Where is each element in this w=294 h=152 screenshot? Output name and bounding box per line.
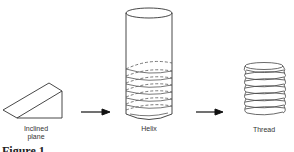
arrow-icon [196, 109, 223, 115]
label-line: Helix [129, 125, 169, 133]
helix-figure [126, 8, 172, 120]
figure-caption: Figure 1 [2, 144, 45, 152]
arrow-icon [81, 109, 110, 115]
inclined-plane-figure [3, 83, 62, 118]
label-line: plane [16, 133, 56, 141]
inclined-plane-label: Inclined plane [16, 125, 56, 141]
label-line: Thread [244, 126, 284, 134]
helix-label: Helix [129, 125, 169, 133]
thread-label: Thread [244, 126, 284, 134]
label-line: Inclined [16, 125, 56, 133]
thread-figure [244, 63, 285, 115]
